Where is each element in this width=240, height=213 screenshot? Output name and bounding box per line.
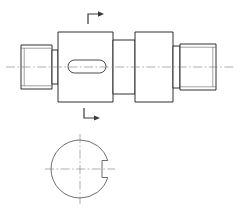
section-mark-bottom bbox=[84, 108, 100, 121]
keyway-slot bbox=[68, 60, 106, 73]
main-elevation-view bbox=[6, 32, 234, 102]
section-mark-top bbox=[88, 11, 104, 24]
technical-drawing-canvas bbox=[0, 0, 240, 213]
shaft-engineering-drawing bbox=[0, 0, 240, 213]
section-view bbox=[45, 134, 115, 204]
